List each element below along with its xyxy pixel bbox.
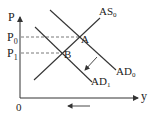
point-a-label: A xyxy=(81,33,89,45)
y-axis-label: P xyxy=(8,10,15,24)
ad0-label: AD0 xyxy=(116,65,136,79)
ad-shift-arrow-icon xyxy=(85,57,97,70)
point-b-label: B xyxy=(64,48,71,60)
ad1-label: AD1 xyxy=(91,75,111,89)
p0-label: P0 xyxy=(7,30,18,46)
as-ad-diagram: P y 0 P0 P1 AS0 AD0 AD1 A B xyxy=(0,0,152,119)
as0-label: AS0 xyxy=(99,5,117,19)
x-axis-label: y xyxy=(141,89,147,103)
p1-label: P1 xyxy=(7,46,18,62)
origin-label: 0 xyxy=(16,101,22,113)
